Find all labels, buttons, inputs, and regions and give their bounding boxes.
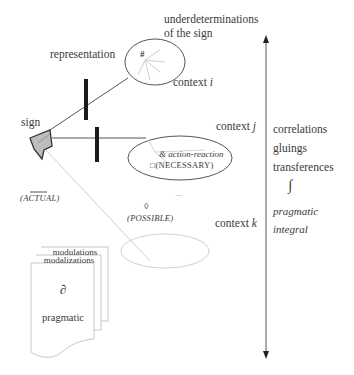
context-k-ellipse (121, 234, 209, 268)
representation-label: representation (50, 49, 115, 61)
correlations-label: correlations (273, 124, 327, 136)
actual-label: (ACTUAL) (20, 194, 60, 203)
context-i-word: context (173, 76, 207, 88)
action-bar (95, 127, 99, 162)
ampersand: & (159, 149, 166, 159)
context-j-word: context (216, 120, 250, 132)
integral-label: integral (273, 224, 308, 235)
pragmatic-label: pragmatic (273, 206, 318, 217)
arrow-down-head (263, 351, 269, 359)
sign-label: sign (21, 117, 40, 129)
partial-derivative-symbol: ∂ (32, 283, 94, 296)
sign-shape (30, 130, 52, 159)
context-j-var: j (253, 120, 256, 132)
hash-label: # (140, 50, 145, 59)
integral-symbol: ∫ (288, 178, 292, 193)
page-middle-label: modalizations (38, 256, 100, 265)
possible-label: (POSSIBLE) (127, 214, 173, 223)
ellipsis-label: ... (175, 189, 182, 198)
necessary-text: (NECESSARY) (155, 160, 213, 170)
diamond-operator-icon: ◊ (144, 202, 148, 211)
context-j-label: context j (216, 121, 256, 133)
sign-to-context-i-line (50, 78, 128, 130)
context-i-label: context i (173, 77, 213, 89)
representation-bar (84, 79, 88, 120)
sign-to-context-k-line (44, 148, 150, 261)
underdetermination-label-1: underdeterminations (164, 14, 259, 26)
arrow-up-head (263, 35, 269, 43)
page-front (31, 263, 94, 357)
action-reaction-text: action-reaction (168, 149, 223, 159)
context-k-label: context k (215, 218, 257, 230)
context-k-word: context (215, 217, 249, 229)
context-i-var: i (210, 76, 213, 88)
underdetermination-label-2: of the sign (164, 28, 213, 40)
necessary-label: □(NECESSARY) (150, 161, 214, 170)
page-front-label: pragmatic (32, 313, 94, 324)
context-k-var: k (252, 217, 257, 229)
action-reaction-label: & action-reaction (159, 150, 223, 159)
transferences-label: transferences (273, 162, 334, 174)
gluings-label: gluings (273, 143, 307, 155)
